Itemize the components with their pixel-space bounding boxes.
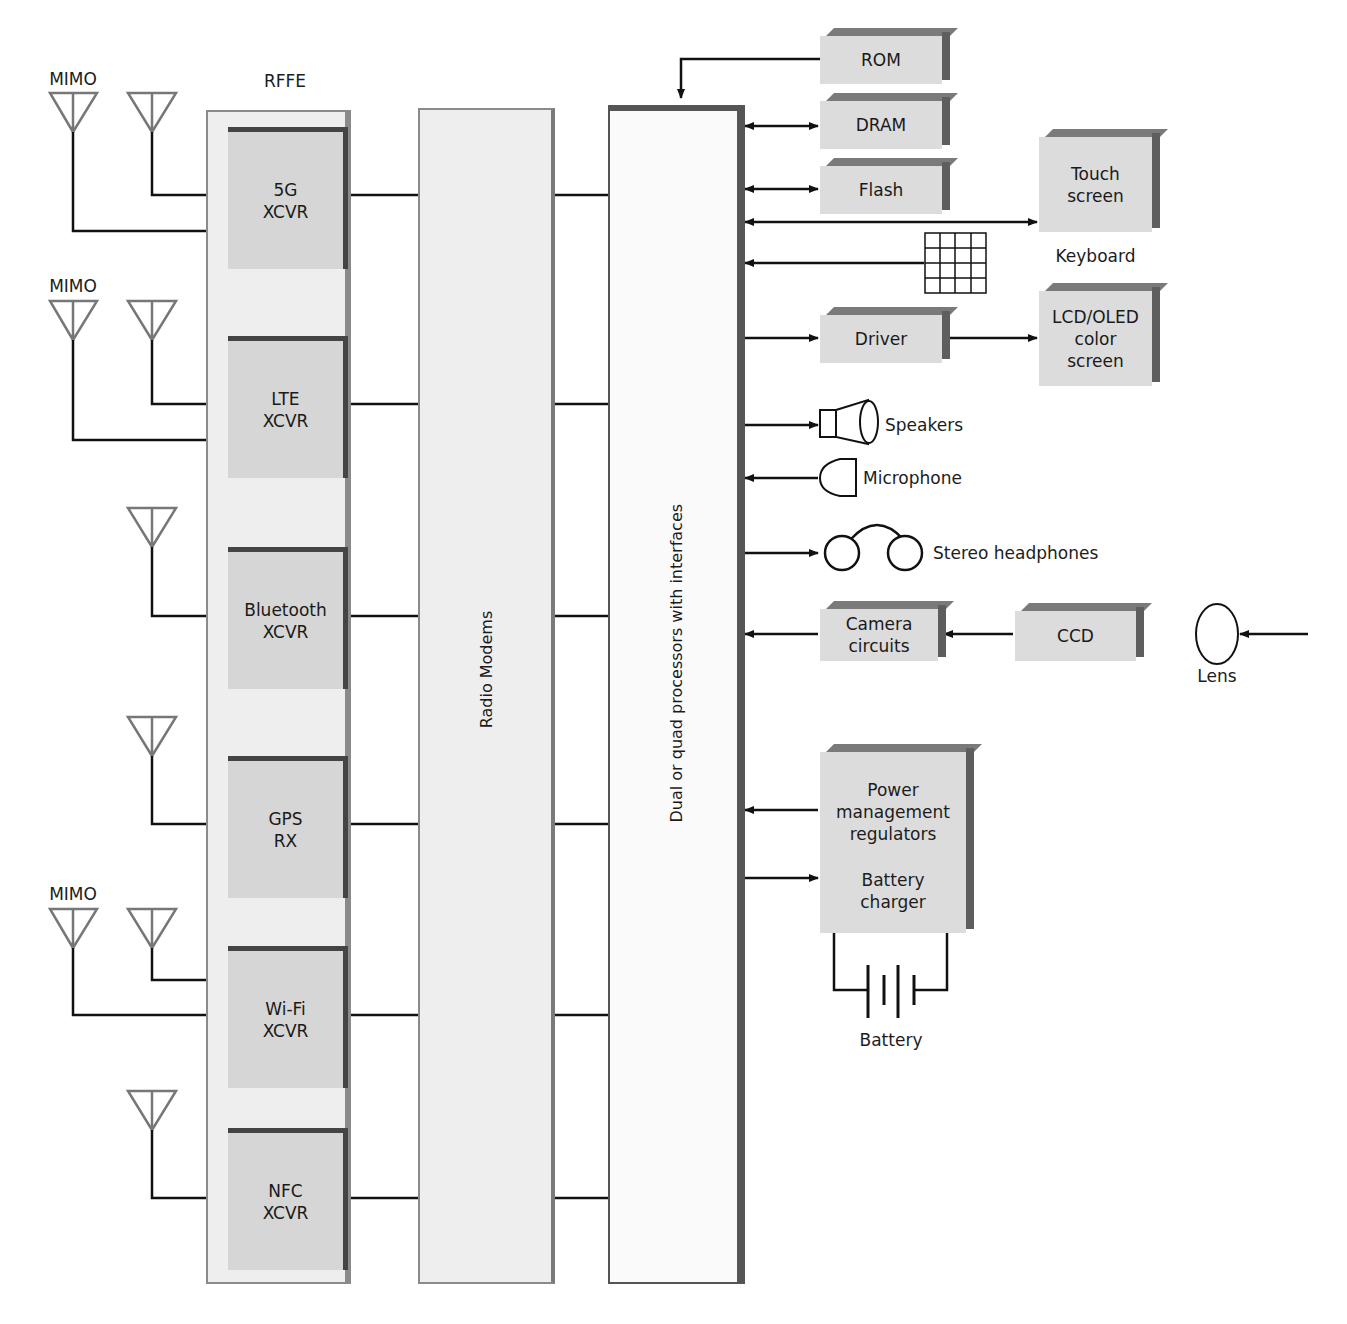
- xcvr-lte: LTE XCVR: [228, 336, 348, 478]
- microphone-label: Microphone: [863, 467, 962, 489]
- battery-label: Battery: [850, 1029, 932, 1051]
- ccd-block: CCD: [1015, 611, 1136, 661]
- headphones-icon: [825, 525, 922, 570]
- power-management-block: Power management regulators Battery char…: [820, 752, 966, 933]
- touch-screen-block: Touch screen: [1039, 137, 1152, 232]
- xcvr-wifi: Wi-Fi XCVR: [228, 946, 348, 1088]
- dram-block: DRAM: [820, 101, 942, 149]
- keyboard-icon: [925, 233, 986, 293]
- battery-icon: [868, 965, 914, 1018]
- lens-label: Lens: [1187, 665, 1247, 687]
- xcvr-gps: GPS RX: [228, 756, 348, 898]
- speaker-icon: [820, 400, 878, 444]
- power-management-label: Power management regulators: [820, 779, 966, 845]
- mimo-label-wifi: MIMO: [40, 883, 106, 905]
- battery-charger-label: Battery charger: [820, 869, 966, 913]
- antenna-icons: [50, 93, 176, 1130]
- headphones-label: Stereo headphones: [933, 542, 1098, 564]
- xcvr-nfc: NFC XCVR: [228, 1128, 348, 1270]
- processor-label: Dual or quad processors with interfaces: [667, 523, 686, 823]
- mimo-label-lte: MIMO: [40, 275, 106, 297]
- driver-block: Driver: [820, 315, 942, 363]
- xcvr-bluetooth: Bluetooth XCVR: [228, 547, 348, 689]
- lens-icon: [1196, 604, 1238, 664]
- mimo-label-5g: MIMO: [40, 68, 106, 90]
- keyboard-label: Keyboard: [1039, 245, 1152, 267]
- camera-circuits-block: Camera circuits: [820, 609, 938, 661]
- rffe-panel: [206, 110, 351, 1284]
- flash-block: Flash: [820, 166, 942, 214]
- rffe-label: RFFE: [252, 70, 318, 92]
- speakers-label: Speakers: [885, 414, 963, 436]
- microphone-icon: [820, 459, 856, 496]
- rom-block: ROM: [820, 36, 942, 84]
- smartphone-block-diagram: Radio Modems Dual or quad processors wit…: [0, 0, 1347, 1324]
- lcd-screen-block: LCD/OLED color screen: [1039, 291, 1152, 386]
- radio-modems-label: Radio Modems: [477, 570, 496, 770]
- xcvr-5g: 5G XCVR: [228, 127, 348, 269]
